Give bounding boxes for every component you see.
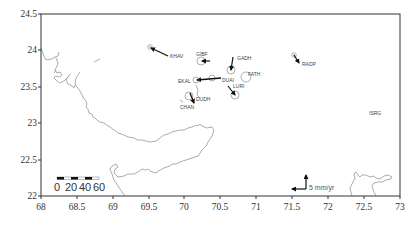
plot-frame	[41, 14, 400, 196]
station-label: FATH	[248, 71, 261, 77]
x-tick-label: 72.5	[356, 202, 373, 212]
station-duai: DUAI	[197, 75, 234, 83]
gps-velocity-map: 68 68.5 69 69.5 70 70.5 71 71.5 72 72.5 …	[0, 0, 419, 228]
x-axis: 68 68.5 69 69.5 70 70.5 71 71.5 72 72.5 …	[36, 196, 405, 212]
station-dudh: DUDH	[185, 92, 211, 103]
station-label: GADH	[237, 55, 252, 61]
x-tick-label: 71.5	[284, 202, 301, 212]
scale-label: 0	[54, 181, 60, 193]
y-tick-label: 23.5	[20, 82, 37, 92]
station-label: KHAV	[170, 53, 184, 59]
x-tick-label: 70	[179, 202, 189, 212]
reference-vector: 5 mm/yr	[292, 175, 335, 192]
station-label: RADP	[302, 61, 317, 67]
y-tick-label: 24	[28, 45, 38, 55]
y-tick-label: 22	[28, 191, 38, 201]
x-tick-label: 68.5	[69, 202, 86, 212]
x-tick-label: 73	[395, 202, 405, 212]
stations: KHAV GIBF GADH FATH DUAI EKAL	[148, 45, 382, 117]
x-tick-label: 70.5	[212, 202, 229, 212]
reference-vector-label: 5 mm/yr	[309, 184, 335, 192]
station-gibf: GIBF	[196, 51, 210, 65]
x-tick-label: 71	[251, 202, 261, 212]
station-label: GIBF	[196, 51, 208, 57]
y-axis: 22 22.5 23 23.5 24 24.5	[20, 9, 41, 201]
y-tick-label: 24.5	[20, 9, 37, 19]
station-label: ISRG	[369, 110, 381, 116]
station-label: CHAN	[180, 104, 195, 110]
station-khav: KHAV	[148, 45, 184, 60]
scale-bar: 0 20 40 60	[54, 177, 105, 193]
scale-label: 40	[79, 181, 91, 193]
station-luri: LURI	[228, 83, 244, 99]
y-tick-label: 22.5	[20, 155, 37, 165]
station-label: DUDH	[196, 96, 211, 102]
station-fath: FATH	[241, 71, 261, 82]
x-tick-label: 72	[323, 202, 333, 212]
station-chan: CHAN	[180, 104, 195, 110]
station-label: EKAL	[178, 78, 191, 84]
station-ekal: EKAL	[178, 77, 199, 84]
scale-label: 20	[65, 181, 77, 193]
scale-label: 60	[93, 181, 105, 193]
station-radp: RADP	[292, 53, 317, 68]
y-tick-label: 23	[28, 118, 38, 128]
coastline	[41, 48, 392, 196]
station-isrg: ISRG	[369, 110, 381, 116]
station-label: LURI	[233, 83, 244, 89]
x-tick-label: 69.5	[141, 202, 158, 212]
x-tick-label: 69	[108, 202, 118, 212]
x-tick-label: 68	[36, 202, 46, 212]
